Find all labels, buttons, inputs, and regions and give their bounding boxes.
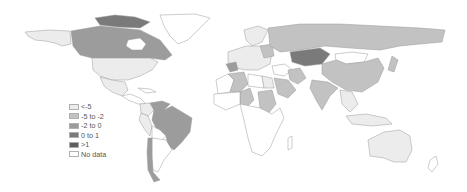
legend-label: 0 to 1 bbox=[81, 131, 99, 140]
region-southeast-asia bbox=[340, 90, 358, 112]
legend-item: >1 bbox=[69, 140, 106, 150]
legend-label: -5 to -2 bbox=[81, 112, 104, 121]
legend-swatch-lt-neg5 bbox=[69, 104, 79, 110]
region-peru bbox=[139, 113, 152, 136]
map-legend: <-5 -5 to -2 -2 to 0 0 to 1 >1 No data bbox=[69, 102, 106, 159]
legend-swatch-neg2-0 bbox=[69, 123, 79, 129]
legend-item: -2 to 0 bbox=[69, 121, 106, 131]
region-iran bbox=[288, 68, 306, 84]
region-iberia bbox=[226, 62, 238, 72]
legend-item: 0 to 1 bbox=[69, 131, 106, 141]
legend-swatch-neg5-neg2 bbox=[69, 113, 79, 119]
region-canada bbox=[71, 26, 172, 60]
region-egypt bbox=[262, 76, 274, 88]
region-arctic-islands bbox=[95, 15, 150, 28]
legend-label: No data bbox=[81, 150, 106, 159]
region-india bbox=[310, 80, 338, 110]
region-indonesia bbox=[346, 114, 392, 126]
legend-item: <-5 bbox=[69, 102, 106, 112]
region-central-africa bbox=[240, 104, 284, 156]
region-libya bbox=[248, 74, 264, 88]
legend-item: No data bbox=[69, 150, 106, 160]
legend-item: -5 to -2 bbox=[69, 112, 106, 122]
legend-label: <-5 bbox=[81, 102, 92, 111]
region-usa bbox=[92, 58, 158, 80]
region-alaska bbox=[25, 30, 71, 46]
legend-label: >1 bbox=[81, 140, 89, 149]
region-australia bbox=[368, 130, 412, 162]
region-west-africa bbox=[214, 92, 240, 110]
legend-label: -2 to 0 bbox=[81, 121, 101, 130]
region-greenland bbox=[160, 14, 210, 44]
region-scandinavia bbox=[244, 26, 268, 46]
region-madagascar bbox=[288, 136, 292, 150]
legend-swatch-no-data bbox=[69, 151, 79, 157]
legend-swatch-gt1 bbox=[69, 142, 79, 148]
region-caribbean bbox=[138, 88, 156, 93]
region-new-zealand bbox=[428, 156, 438, 172]
region-russia bbox=[268, 24, 445, 52]
world-choropleth-map bbox=[0, 0, 467, 192]
region-central-america bbox=[122, 94, 146, 104]
region-japan bbox=[388, 56, 398, 72]
legend-swatch-0-1 bbox=[69, 132, 79, 138]
